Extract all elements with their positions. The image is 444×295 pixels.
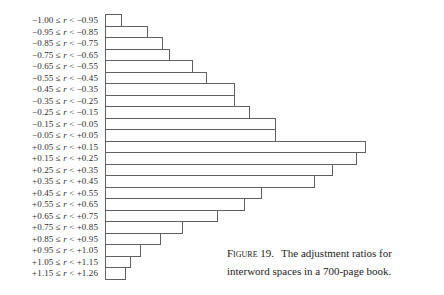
bin-label: +1.05 ≤ r < +1.15 [0,257,98,269]
bin-label: −0.35 ≤ r < −0.25 [0,96,98,108]
bin-label: +0.65 ≤ r < +0.75 [0,211,98,223]
bin-label: +0.75 ≤ r < +0.85 [0,222,98,234]
bin-label: −0.55 ≤ r < −0.45 [0,73,98,85]
bin-label: +1.15 ≤ r < +1.26 [0,268,98,280]
histogram-row: −0.85 ≤ r < −0.75 [0,38,366,50]
caption-line2: interword spaces in a 700-page book. [227,265,391,277]
histogram-row: −0.95 ≤ r < −0.85 [0,27,366,39]
bin-label: +0.05 ≤ r < +0.15 [0,142,98,154]
figure-caption: Figure 19.The adjustment ratios for inte… [227,245,435,280]
adjustment-ratio-histogram: −1.00 ≤ r < −0.95 −0.95 ≤ r < −0.85 −0.8… [0,15,366,280]
bin-label: −0.65 ≤ r < −0.55 [0,61,98,73]
bin-label: −0.25 ≤ r < −0.15 [0,107,98,119]
bin-label: −0.75 ≤ r < −0.65 [0,50,98,62]
histogram-row: +0.85 ≤ r < +0.95 [0,234,366,246]
caption-figure-label: Figure 19. [227,247,274,259]
bin-label: −1.00 ≤ r < −0.95 [0,15,98,27]
bin-label: −0.15 ≤ r < −0.05 [0,119,98,131]
bin-label: −0.05 ≤ r < +0.05 [0,130,98,142]
histogram-bar [105,267,126,280]
caption-line1: The adjustment ratios for [281,247,392,259]
bin-label: +0.55 ≤ r < +0.65 [0,199,98,211]
bin-label: +0.35 ≤ r < +0.45 [0,176,98,188]
bin-label: −0.95 ≤ r < −0.85 [0,27,98,39]
bin-label: +0.85 ≤ r < +0.95 [0,234,98,246]
bin-label: −0.45 ≤ r < −0.35 [0,84,98,96]
histogram-row: −1.00 ≤ r < −0.95 [0,15,366,27]
bin-label: +0.45 ≤ r < +0.55 [0,188,98,200]
bin-label: +0.95 ≤ r < +1.05 [0,245,98,257]
bin-label: +0.15 ≤ r < +0.25 [0,153,98,165]
bin-label: +0.25 ≤ r < +0.35 [0,165,98,177]
histogram-row: +0.65 ≤ r < +0.75 [0,211,366,223]
bin-label: −0.85 ≤ r < −0.75 [0,38,98,50]
histogram-row: +0.75 ≤ r < +0.85 [0,222,366,234]
